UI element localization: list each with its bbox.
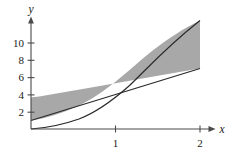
- shaded-area-between-curves: [31, 21, 200, 121]
- y-tick-label-6: 6: [19, 71, 25, 83]
- y-tick-label-2: 2: [19, 106, 25, 118]
- y-axis-arrow-icon: [28, 17, 34, 24]
- y-axis-label: y: [27, 3, 34, 16]
- x-axis-arrow-icon: [209, 126, 216, 132]
- chart-canvas: 2 4 6 8 10 1 2 y x: [0, 0, 229, 163]
- x-tick-label-2: 2: [197, 137, 203, 149]
- y-tick-label-10: 10: [13, 37, 25, 49]
- x-tick-label-1: 1: [113, 137, 119, 149]
- x-axis-label: x: [218, 123, 225, 135]
- y-tick-label-4: 4: [19, 89, 25, 101]
- y-tick-label-8: 8: [19, 54, 25, 66]
- chart-figure: 2 4 6 8 10 1 2 y x: [0, 0, 229, 163]
